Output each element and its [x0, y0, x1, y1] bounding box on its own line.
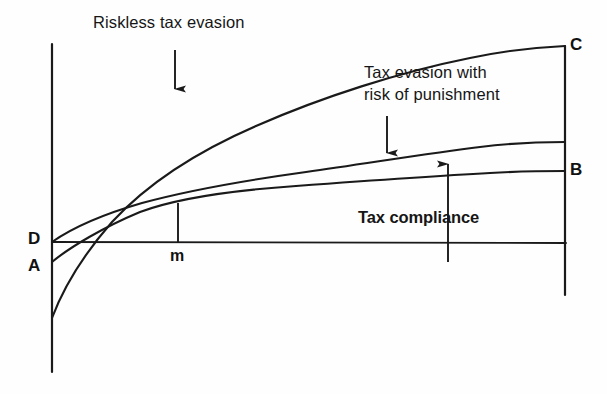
annotation-line-1: Tax evasion with — [364, 63, 487, 81]
curve-tax-evasion-with-risk — [52, 142, 565, 242]
horizontal-reference-line-D — [52, 242, 566, 243]
annotation-tax-compliance: Tax compliance — [358, 208, 479, 227]
point-label-m: m — [170, 247, 184, 265]
annotation-riskless-tax-evasion: Riskless tax evasion — [93, 13, 244, 32]
annotation-line-2: risk of punishment — [364, 85, 500, 103]
annotation-tax-evasion-with-risk: Tax evasion withrisk of punishment — [364, 62, 500, 106]
point-label-d: D — [28, 229, 40, 249]
point-label-a: A — [28, 256, 40, 276]
curve-tax-compliance — [52, 171, 565, 262]
point-label-c: C — [570, 35, 582, 55]
point-label-b: B — [570, 160, 582, 180]
figure-canvas: Riskless tax evasion Tax evasion withris… — [0, 0, 607, 394]
diagram-svg — [0, 0, 607, 394]
